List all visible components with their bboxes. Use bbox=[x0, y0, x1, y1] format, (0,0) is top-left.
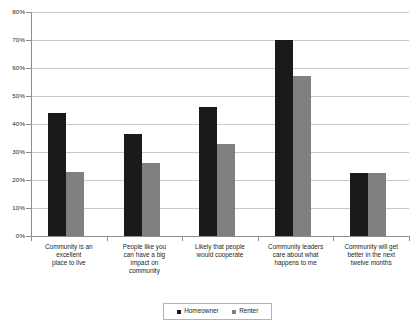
legend-label-homeowner: Homeowner bbox=[184, 308, 218, 314]
category-label-line: would cooperate bbox=[185, 251, 255, 259]
category-label-line: Community will get bbox=[336, 243, 406, 251]
category-tick bbox=[31, 236, 32, 241]
bar-chart: 0%10%20%30%40%50%60%70%80% Community is … bbox=[0, 0, 416, 327]
category-label-line: People like you bbox=[110, 243, 180, 251]
category-tick bbox=[333, 236, 334, 241]
category-label-line: can have a big bbox=[110, 251, 180, 259]
bar-group bbox=[333, 12, 409, 236]
category-label: Community will getbetter in the nexttwel… bbox=[336, 243, 406, 267]
category-label-line: Community is an bbox=[34, 243, 104, 251]
y-axis-label: 10% bbox=[1, 205, 25, 211]
bar-homeowner bbox=[350, 173, 368, 236]
bar-renter bbox=[368, 173, 386, 236]
category-label: Community leaderscare about whathappens … bbox=[261, 243, 331, 267]
bar-renter bbox=[66, 172, 84, 236]
legend-swatch-renter bbox=[232, 310, 236, 314]
bar-homeowner bbox=[199, 107, 217, 236]
y-axis-label: 60% bbox=[1, 65, 25, 71]
y-axis-label: 30% bbox=[1, 149, 25, 155]
bar-renter bbox=[142, 163, 160, 236]
category-tick bbox=[107, 236, 108, 241]
category-tick bbox=[409, 236, 410, 241]
bar-group bbox=[182, 12, 258, 236]
legend-label-renter: Renter bbox=[239, 308, 258, 314]
category-tick bbox=[182, 236, 183, 241]
category-label: Community is anexcellentplace to live bbox=[34, 243, 104, 267]
category-label-line: impact on bbox=[110, 259, 180, 267]
legend-item-renter: Renter bbox=[232, 308, 259, 314]
category-label: People like youcan have a bigimpact onco… bbox=[110, 243, 180, 275]
y-axis-label: 0% bbox=[1, 233, 25, 239]
y-axis-label: 40% bbox=[1, 121, 25, 127]
legend-item-homeowner: Homeowner bbox=[177, 308, 219, 314]
y-axis-label: 80% bbox=[1, 9, 25, 15]
y-axis-label: 20% bbox=[1, 177, 25, 183]
legend-swatch-homeowner bbox=[177, 310, 181, 314]
category-label-line: Community leaders bbox=[261, 243, 331, 251]
chart-legend: Homeowner Renter bbox=[163, 303, 272, 320]
bar-homeowner bbox=[48, 113, 66, 236]
bar-group bbox=[258, 12, 334, 236]
category-label-line: happens to me bbox=[261, 259, 331, 267]
category-label-line: excellent bbox=[34, 251, 104, 259]
bar-renter bbox=[293, 76, 311, 236]
category-label-line: place to live bbox=[34, 259, 104, 267]
bar-renter bbox=[217, 144, 235, 236]
category-tick bbox=[258, 236, 259, 241]
bar-group bbox=[31, 12, 107, 236]
bar-homeowner bbox=[124, 134, 142, 236]
category-label: Likely that peoplewould cooperate bbox=[185, 243, 255, 259]
x-axis-line bbox=[31, 236, 409, 237]
bar-group bbox=[107, 12, 183, 236]
category-label-line: care about what bbox=[261, 251, 331, 259]
category-label-line: Likely that people bbox=[185, 243, 255, 251]
category-label-line: community bbox=[110, 267, 180, 275]
category-label-line: better in the next bbox=[336, 251, 406, 259]
bar-homeowner bbox=[275, 40, 293, 236]
category-label-line: twelve months bbox=[336, 259, 406, 267]
y-axis-label: 70% bbox=[1, 37, 25, 43]
y-axis-label: 50% bbox=[1, 93, 25, 99]
